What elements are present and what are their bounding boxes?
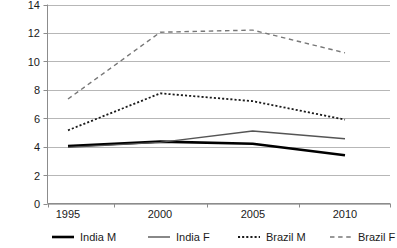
legend-label-india-f: India F (176, 231, 210, 243)
y-tick-label-6: 6 (34, 113, 40, 125)
y-tick-label-2: 2 (34, 170, 40, 182)
legend-label-brazil-m: Brazil M (266, 231, 306, 243)
y-tick-label-10: 10 (28, 56, 40, 68)
legend-label-brazil-f: Brazil F (358, 231, 396, 243)
y-tick-label-14: 14 (28, 0, 40, 11)
line-chart: 0 2 4 6 8 10 12 14 1995 2000 2005 2010 I… (0, 0, 397, 248)
legend-label-india-m: India M (80, 231, 116, 243)
y-tick-label-12: 12 (28, 27, 40, 39)
x-tick-label-2000: 2000 (148, 208, 172, 220)
x-tick-label-2005: 2005 (241, 208, 265, 220)
chart-canvas: 0 2 4 6 8 10 12 14 1995 2000 2005 2010 I… (0, 0, 397, 248)
y-tick-label-8: 8 (34, 84, 40, 96)
y-tick-label-4: 4 (34, 141, 40, 153)
x-tick-label-1995: 1995 (56, 208, 80, 220)
x-tick-label-2010: 2010 (333, 208, 357, 220)
y-tick-label-0: 0 (34, 198, 40, 210)
